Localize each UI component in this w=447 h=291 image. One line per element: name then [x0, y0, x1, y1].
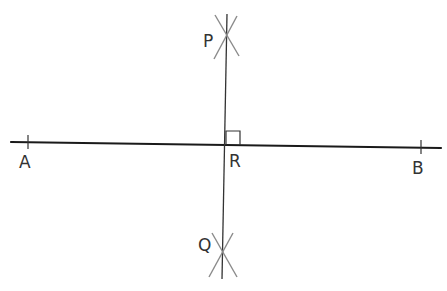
point-label-b: B	[412, 160, 424, 177]
perpendicular-line-pq	[222, 14, 227, 279]
right-angle-marker	[226, 131, 240, 145]
point-label-a: A	[19, 154, 31, 171]
point-label-p: P	[203, 33, 213, 50]
construction-diagram	[0, 0, 447, 291]
point-label-r: R	[229, 153, 241, 170]
point-label-q: Q	[198, 237, 211, 254]
